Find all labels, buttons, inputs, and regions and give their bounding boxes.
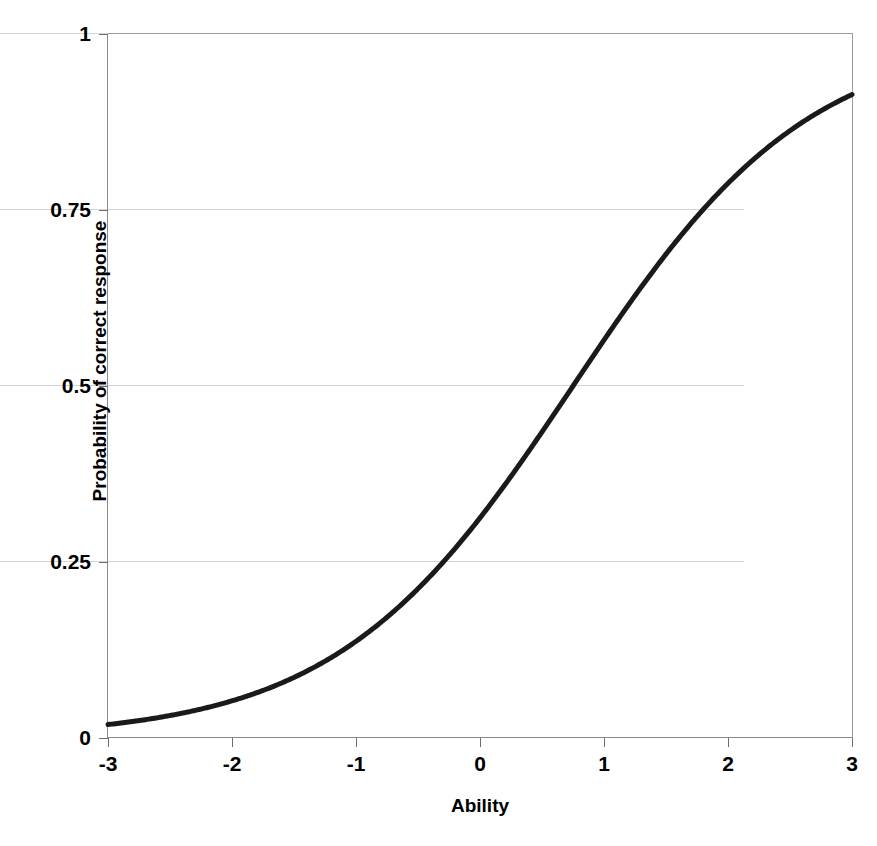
plot-border-right [852,34,853,738]
x-tick-label: -1 [336,752,376,776]
x-tick-label: -2 [212,752,252,776]
y-tick-mark [99,34,108,35]
plot-border-top [108,33,853,34]
curve-canvas [0,0,877,846]
gridline-y-075 [0,209,744,210]
x-tick-mark [356,738,357,747]
gridline-y-025 [0,561,744,562]
x-tick-mark [728,738,729,747]
x-tick-label: -3 [88,752,128,776]
x-tick-mark [108,738,109,747]
gridline-y-05 [0,385,744,386]
y-tick-label: 0.5 [11,375,91,397]
item-characteristic-curve-chart: -3 -2 -1 0 1 2 3 1 0.75 0.5 0.25 0 Abili… [0,0,877,846]
x-tick-mark [480,738,481,747]
y-tick-label: 0.25 [11,551,91,573]
x-tick-label: 0 [460,752,500,776]
x-tick-label: 1 [584,752,624,776]
y-tick-label: 0 [11,727,91,749]
x-tick-mark [604,738,605,747]
x-tick-label: 2 [708,752,748,776]
y-tick-label: 1 [11,23,91,45]
x-axis-title: Ability [108,795,852,817]
y-tick-mark [99,562,108,563]
y-axis-title: Probability of correct response [89,161,111,561]
item-characteristic-curve-line [108,95,852,725]
x-tick-mark [232,738,233,747]
y-tick-label: 0.75 [11,199,91,221]
x-tick-mark [852,738,853,747]
x-tick-label: 3 [832,752,872,776]
y-tick-mark [99,738,108,739]
